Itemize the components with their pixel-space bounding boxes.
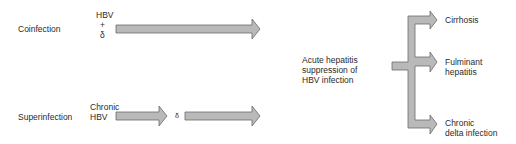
outcome-fulminant-1: Fulminant bbox=[445, 57, 482, 67]
superinfection-arrow-1 bbox=[116, 106, 167, 126]
superinfection-arrow-2 bbox=[185, 106, 260, 126]
superinfection-delta: δ bbox=[175, 111, 179, 121]
diagram-arrows bbox=[0, 0, 516, 144]
coinfection-agent-hbv: HBV bbox=[96, 10, 113, 20]
branching-outcome-arrow bbox=[392, 11, 437, 134]
outcome-chronic-1: Chronic bbox=[445, 118, 474, 128]
outcome-fulminant-2: hepatitis bbox=[445, 67, 477, 77]
superinfection-label: Superinfection bbox=[18, 112, 72, 122]
center-line-2: suppression of bbox=[302, 65, 357, 75]
coinfection-label: Coinfection bbox=[18, 24, 61, 34]
superinfection-agent-hbv: HBV bbox=[90, 112, 107, 122]
center-line-1: Acute hepatitis bbox=[302, 55, 358, 65]
coinfection-agent-plus: + bbox=[100, 20, 105, 30]
coinfection-arrow bbox=[116, 19, 260, 39]
center-line-3: HBV infection bbox=[302, 75, 354, 85]
coinfection-agent-delta: δ bbox=[100, 30, 105, 40]
superinfection-agent-chronic: Chronic bbox=[90, 102, 119, 112]
outcome-cirrhosis: Cirrhosis bbox=[445, 15, 479, 25]
outcome-chronic-2: delta infection bbox=[445, 128, 497, 138]
